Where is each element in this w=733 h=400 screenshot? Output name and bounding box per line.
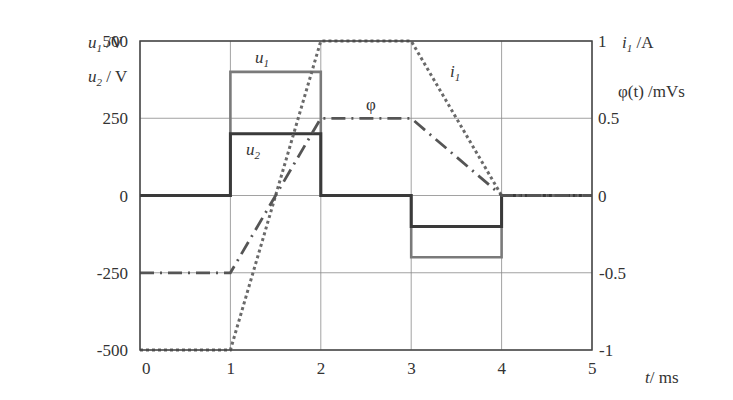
- x-tick-label: 2: [317, 359, 326, 378]
- y-right-tick-label: 1: [598, 32, 607, 51]
- chart-container: 0123455002500-250-50010.50-0.5-1 u1 /V u…: [0, 0, 733, 400]
- y-left-tick-label: -250: [97, 264, 128, 283]
- u1-axis-label: u1 /V: [88, 33, 124, 54]
- tick-labels: 0123455002500-250-50010.50-0.5-1: [97, 32, 626, 378]
- series-group: [140, 41, 592, 350]
- t-axis-label: t/ ms: [645, 368, 679, 387]
- chart-svg: 0123455002500-250-50010.50-0.5-1 u1 /V u…: [0, 0, 733, 400]
- series-u2-line: [140, 134, 592, 227]
- y-right-tick-label: 0: [598, 187, 607, 206]
- x-tick-label: 1: [226, 359, 235, 378]
- phi-axis-label: φ(t) /mVs: [618, 82, 685, 101]
- y-left-tick-label: -500: [97, 341, 128, 360]
- x-tick-label: 3: [407, 359, 416, 378]
- x-tick-label: 4: [498, 359, 507, 378]
- u2-curve-label: u2: [246, 140, 261, 161]
- u2-axis-label: u2 / V: [88, 67, 128, 88]
- i1-axis-label: i1 /A: [622, 33, 654, 54]
- y-right-tick-label: 0.5: [598, 109, 619, 128]
- y-left-tick-label: 250: [103, 109, 129, 128]
- i1-curve-label: i1: [450, 62, 460, 83]
- y-right-tick-label: -0.5: [599, 264, 626, 283]
- x-tick-label: 5: [588, 359, 597, 378]
- phi-curve-label: φ: [366, 95, 376, 114]
- y-right-tick-label: -1: [599, 341, 613, 360]
- u1-curve-label: u1: [255, 48, 269, 69]
- x-tick-label: 0: [142, 359, 151, 378]
- y-left-tick-label: 0: [120, 187, 129, 206]
